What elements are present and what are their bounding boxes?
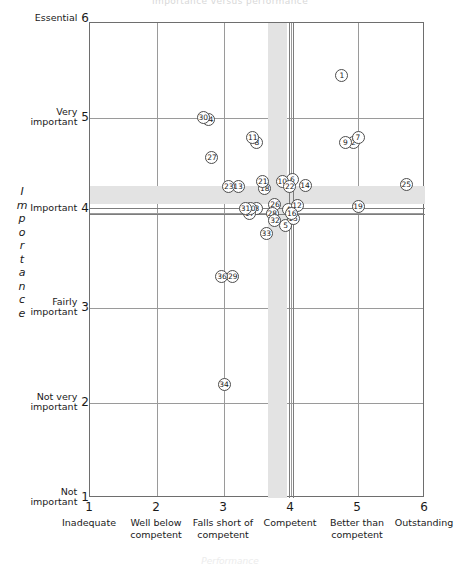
gridline-vertical <box>224 23 225 496</box>
y-tick-number: 3 <box>81 302 89 312</box>
scatter-point[interactable]: 36 <box>215 270 228 283</box>
scatter-point[interactable]: 31 <box>239 202 252 215</box>
plot-area: 1234567891011121314151617181920212223242… <box>89 22 424 497</box>
scatter-point[interactable]: 29 <box>226 270 239 283</box>
y-tick-label: Essential <box>35 13 78 23</box>
x-tick-number: 5 <box>337 500 377 514</box>
scatter-point[interactable]: 7 <box>352 131 365 144</box>
gridline-vertical <box>358 23 359 496</box>
scatter-point[interactable]: 25 <box>400 178 413 191</box>
scatter-point[interactable]: 34 <box>218 378 231 391</box>
y-tick-number: 5 <box>81 112 89 122</box>
x-axis-title: Performance <box>0 556 460 566</box>
y-tick-label: Important <box>30 203 77 213</box>
scatter-point[interactable]: 14 <box>299 179 312 192</box>
scatter-point[interactable]: 1 <box>335 69 348 82</box>
x-tick-number: 4 <box>270 500 310 514</box>
scatter-point[interactable]: 27 <box>205 151 218 164</box>
gridline-horizontal <box>90 118 423 119</box>
scatter-point[interactable]: 23 <box>222 180 235 193</box>
scatter-point[interactable]: 30 <box>197 111 210 124</box>
chart-title: Importance versus performance <box>0 0 460 6</box>
scatter-point[interactable]: 19 <box>352 200 365 213</box>
x-tick-number: 2 <box>136 500 176 514</box>
y-tick-label: Fairlyimportant <box>30 297 77 317</box>
gridline-vertical <box>157 23 158 496</box>
x-tick-number: 3 <box>203 500 243 514</box>
gridline-horizontal <box>90 308 423 309</box>
gridline-horizontal <box>90 403 423 404</box>
scatter-point[interactable]: 9 <box>339 136 352 149</box>
gridline-vertical <box>291 23 292 496</box>
vertical-mean-band <box>268 23 287 498</box>
scatter-point[interactable]: 22 <box>283 180 296 193</box>
y-tick-number: 6 <box>81 13 89 23</box>
y-tick-label: Not veryimportant <box>30 392 77 412</box>
x-tick-number: 6 <box>404 500 444 514</box>
x-tick-label: Outstanding <box>376 517 460 529</box>
vertical-mean-line <box>289 23 290 498</box>
y-tick-number: 4 <box>81 203 89 213</box>
y-tick-number: 2 <box>81 397 89 407</box>
y-tick-label: Veryimportant <box>30 107 77 127</box>
x-tick-number: 1 <box>69 500 109 514</box>
vertical-mean-line <box>293 23 294 498</box>
